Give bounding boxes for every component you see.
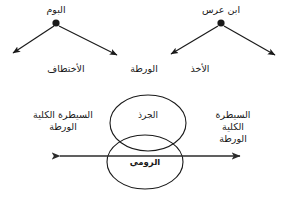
edge-right-outer — [224, 26, 275, 55]
tree-edges-left — [13, 26, 117, 55]
node-dot-left — [52, 19, 59, 26]
edge-label-abduction: الأختطاف — [47, 64, 84, 75]
edge-left-outer — [13, 26, 54, 53]
ellipse-upper — [110, 95, 186, 151]
venn-upper-ellipse-label: الجرذ — [138, 110, 158, 120]
venn-lower-ellipse-label: الرومي — [130, 158, 161, 168]
edge-label-taking: الأخذ — [191, 64, 210, 75]
node-dot-right — [217, 19, 224, 26]
diagram-canvas: البوم ابن عرس الأختطاف الورطة الأخذ السي… — [0, 0, 289, 201]
venn-left-side-label: السيطرة الكلية الورطة — [33, 109, 93, 133]
edge-left-inner — [59, 26, 117, 55]
edge-right-inner — [171, 26, 218, 54]
node-label-right: ابن عرس — [202, 5, 240, 16]
edge-label-predicament: الورطة — [130, 64, 158, 75]
diagram-vector-layer — [0, 0, 289, 201]
venn-right-side-label: السيطرة الكلية الورطة — [205, 109, 261, 145]
node-label-left: البوم — [46, 5, 65, 16]
tree-edges-right — [171, 26, 275, 55]
